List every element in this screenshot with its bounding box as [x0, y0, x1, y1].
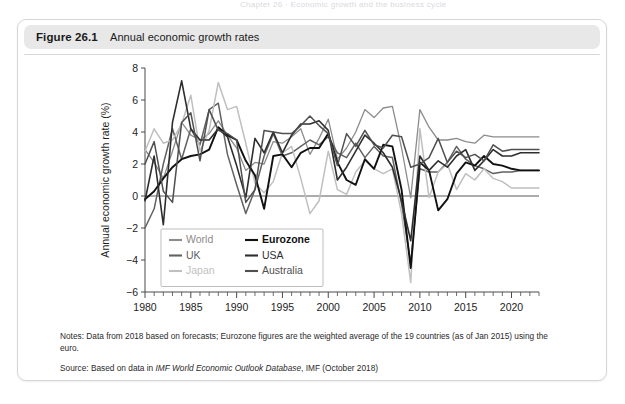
figure-number-label: Figure 26.1 [24, 31, 110, 43]
y-tick-label: −6 [126, 286, 138, 298]
notes-label: Notes: [60, 331, 84, 341]
figure-caption-bar: Figure 26.1 Annual economic growth rates [24, 25, 600, 49]
y-tick-label: 4 [132, 126, 138, 138]
y-tick-label: 0 [132, 190, 138, 202]
x-tick-label: 2020 [500, 301, 524, 313]
y-tick-label: 8 [132, 62, 138, 74]
source-label: Source: [60, 363, 89, 373]
x-tick-label: 2015 [454, 301, 478, 313]
y-tick-label: 6 [132, 94, 138, 106]
figure-card: Figure 26.1 Annual economic growth rates… [17, 19, 607, 381]
notes-text: Data from 2018 based on forecasts; Euroz… [60, 331, 548, 353]
legend-label-usa: USA [262, 249, 284, 261]
y-tick-label: −4 [126, 254, 138, 266]
source-line: Source: Based on data in IMF World Econo… [60, 362, 565, 374]
running-header: Chapter 26 · Economic growth and the bus… [240, 0, 540, 10]
legend-label-world: World [186, 233, 213, 245]
legend-label-uk: UK [186, 249, 201, 261]
y-tick-label: 2 [132, 158, 138, 170]
source-prefix: Based on data in [91, 363, 156, 373]
x-tick-label: 1980 [133, 301, 157, 313]
figure-notes: Notes: Data from 2018 based on forecasts… [60, 330, 565, 374]
caption-divider [24, 54, 600, 55]
x-tick-label: 1990 [225, 301, 249, 313]
x-tick-label: 2000 [317, 301, 341, 313]
source-italic-title: IMF World Economic Outlook Database [156, 363, 302, 373]
notes-line: Notes: Data from 2018 based on forecasts… [60, 330, 565, 355]
y-axis-title: Annual economic growth rate (%) [99, 102, 111, 257]
legend-label-australia: Australia [262, 264, 303, 276]
x-tick-label: 2010 [408, 301, 432, 313]
y-tick-label: −2 [126, 222, 138, 234]
growth-rate-line-chart: −6−4−20246819801985199019952000200520102… [18, 56, 608, 328]
chart-container: −6−4−20246819801985199019952000200520102… [18, 56, 608, 328]
legend-label-eurozone: Eurozone [262, 233, 310, 245]
x-tick-label: 2005 [362, 301, 386, 313]
x-tick-label: 1995 [271, 301, 295, 313]
source-suffix: , IMF (October 2018) [301, 363, 378, 373]
figure-title: Annual economic growth rates [110, 31, 259, 43]
legend-label-japan: Japan [186, 264, 215, 276]
x-tick-label: 1985 [179, 301, 203, 313]
